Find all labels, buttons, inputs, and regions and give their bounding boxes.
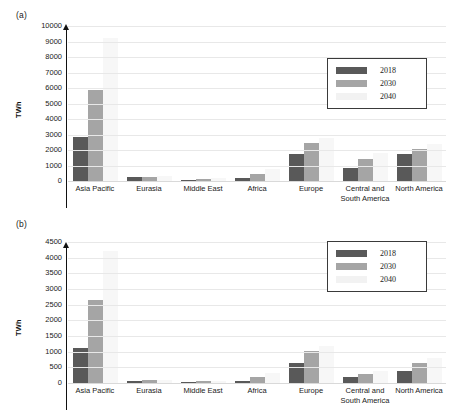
bar-2040 [427,358,442,383]
bar-stack [176,242,230,383]
bar-2018 [397,154,412,181]
legend-label: 2040 [380,92,396,101]
y-tick-label: 2500 [45,301,62,309]
y-tick-label: 6000 [45,84,62,92]
legend-label: 2040 [380,275,396,284]
x-tick-label: Europe [284,386,338,405]
x-tick-label: Middle East [176,184,230,203]
y-tick-label: 2000 [45,317,62,325]
legend-label: 2018 [380,66,396,75]
gridline [68,320,446,321]
bar-group [230,242,284,383]
x-tick-label: Central and South America [338,184,392,203]
legend-label: 2030 [380,262,396,271]
legend-swatch-icon [336,93,367,100]
gridline [68,42,446,43]
y-tick-label: 8000 [45,53,62,61]
legend-item: 2018 [336,64,416,77]
y-tick-label: 500 [49,364,62,372]
x-tick-label: Africa [230,184,284,203]
bar-2018 [343,168,358,181]
legend-swatch-icon [336,250,367,257]
y-tick-label: 10000 [41,22,62,30]
legend-b: 201820302040 [327,241,427,292]
bar-2040 [103,38,118,181]
panel-label-a: (a) [16,10,27,20]
bar-2018 [73,137,88,181]
legend-label: 2030 [380,79,396,88]
legend-item: 2018 [336,247,416,260]
bar-group [176,242,230,383]
bar-2040 [319,138,334,181]
bar-group [68,242,122,383]
bar-2030 [88,300,103,383]
legend-item: 2040 [336,273,416,286]
x-tick-label: Eurasia [122,386,176,405]
x-tick-label: Central and South America [338,386,392,405]
gridline [68,367,446,368]
chart-panel-a: (a) TWh 10000900080007000600050004000300… [0,0,458,208]
legend-item: 2030 [336,77,416,90]
legend-a: 201820302040 [327,58,427,109]
gridline [68,305,446,306]
gridline [68,26,446,27]
bar-2030 [304,143,319,181]
y-tick-label: 4500 [45,238,62,246]
bar-2030 [358,159,373,181]
x-tick-label: North America [392,386,446,405]
bar-2030 [250,174,265,181]
bar-stack [68,242,122,383]
bar-2030 [358,374,373,383]
bar-2040 [103,251,118,383]
bar-group [122,242,176,383]
bar-stack [230,242,284,383]
legend-item: 2040 [336,90,416,103]
x-tick-label: Middle East [176,386,230,405]
y-tick-label: 3000 [45,285,62,293]
y-axis-ticks-b: 450040003500300025002000150010005000 [28,242,62,383]
bar-2018 [73,348,88,383]
x-tick-label: North America [392,184,446,203]
gridline [68,119,446,120]
y-tick-label: 7000 [45,69,62,77]
y-tick-label: 1000 [45,162,62,170]
bar-2040 [265,373,280,383]
bar-2040 [265,169,280,181]
x-tick-label: Europe [284,184,338,203]
x-tick-label: Eurasia [122,184,176,203]
bar-2040 [373,153,388,181]
y-tick-label: 3000 [45,131,62,139]
y-tick-label: 5000 [45,100,62,108]
figure-container: (a) TWh 10000900080007000600050004000300… [0,0,458,416]
legend-label: 2018 [380,249,396,258]
gridline [68,166,446,167]
y-tick-label: 9000 [45,38,62,46]
x-axis-ticks-a: Asia PacificEurasiaMiddle EastAfricaEuro… [68,184,446,203]
y-tick-label: 4000 [45,254,62,262]
x-axis-ticks-b: Asia PacificEurasiaMiddle EastAfricaEuro… [68,386,446,405]
x-tick-label: Asia Pacific [68,184,122,203]
gridline [68,352,446,353]
bar-2030 [412,363,427,383]
gridline [68,135,446,136]
bar-2018 [397,371,412,383]
y-tick-label: 3500 [45,270,62,278]
y-tick-label: 0 [58,177,62,185]
legend-item: 2030 [336,260,416,273]
gridline [68,336,446,337]
y-tick-label: 1500 [45,332,62,340]
y-axis-ticks-a: 1000090008000700060005000400030002000100… [28,26,62,181]
gridline [68,150,446,151]
legend-swatch-icon [336,80,367,87]
y-tick-label: 4000 [45,115,62,123]
bar-2018 [289,363,304,383]
legend-swatch-icon [336,67,367,74]
y-tick-label: 1000 [45,348,62,356]
gridline [68,383,446,384]
gridline [68,181,446,182]
x-tick-label: Asia Pacific [68,386,122,405]
y-axis-title-a: TWh [14,101,23,118]
legend-swatch-icon [336,263,367,270]
y-tick-label: 0 [58,379,62,387]
y-tick-label: 2000 [45,146,62,154]
